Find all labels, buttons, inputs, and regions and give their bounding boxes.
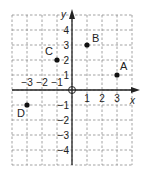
y-tick-label: 2	[63, 55, 69, 66]
x-tick-label: −3	[21, 77, 33, 88]
x-tick-label: 3	[114, 93, 120, 104]
y-tick-label: 1	[63, 70, 69, 81]
x-tick-label: −2	[36, 77, 48, 88]
point-b	[84, 42, 89, 47]
x-tick-label: 1	[84, 93, 90, 104]
y-tick-label: 3	[63, 40, 69, 51]
point-c	[54, 57, 59, 62]
point-a	[114, 72, 119, 77]
y-tick-label: −4	[58, 145, 70, 156]
point-label-d: D	[17, 107, 25, 119]
point-label-c: C	[45, 45, 53, 57]
y-tick-label: −2	[58, 115, 70, 126]
y-tick-label: 4	[63, 25, 69, 36]
point-label-a: A	[120, 60, 128, 72]
x-tick-label: 2	[99, 93, 105, 104]
y-axis-arrow-icon	[69, 9, 75, 19]
y-tick-label: −1	[58, 100, 70, 111]
point-d	[24, 102, 29, 107]
coordinate-plane: x y −3−2−11234321−1−2−3−4 ABCD	[0, 0, 142, 175]
x-axis-label: x	[129, 95, 136, 106]
y-tick-label: −3	[58, 130, 70, 141]
x-axis-arrow-icon	[131, 87, 140, 93]
y-axis-label: y	[60, 9, 67, 20]
x-tick-label: −1	[51, 77, 63, 88]
point-label-b: B	[92, 32, 99, 44]
